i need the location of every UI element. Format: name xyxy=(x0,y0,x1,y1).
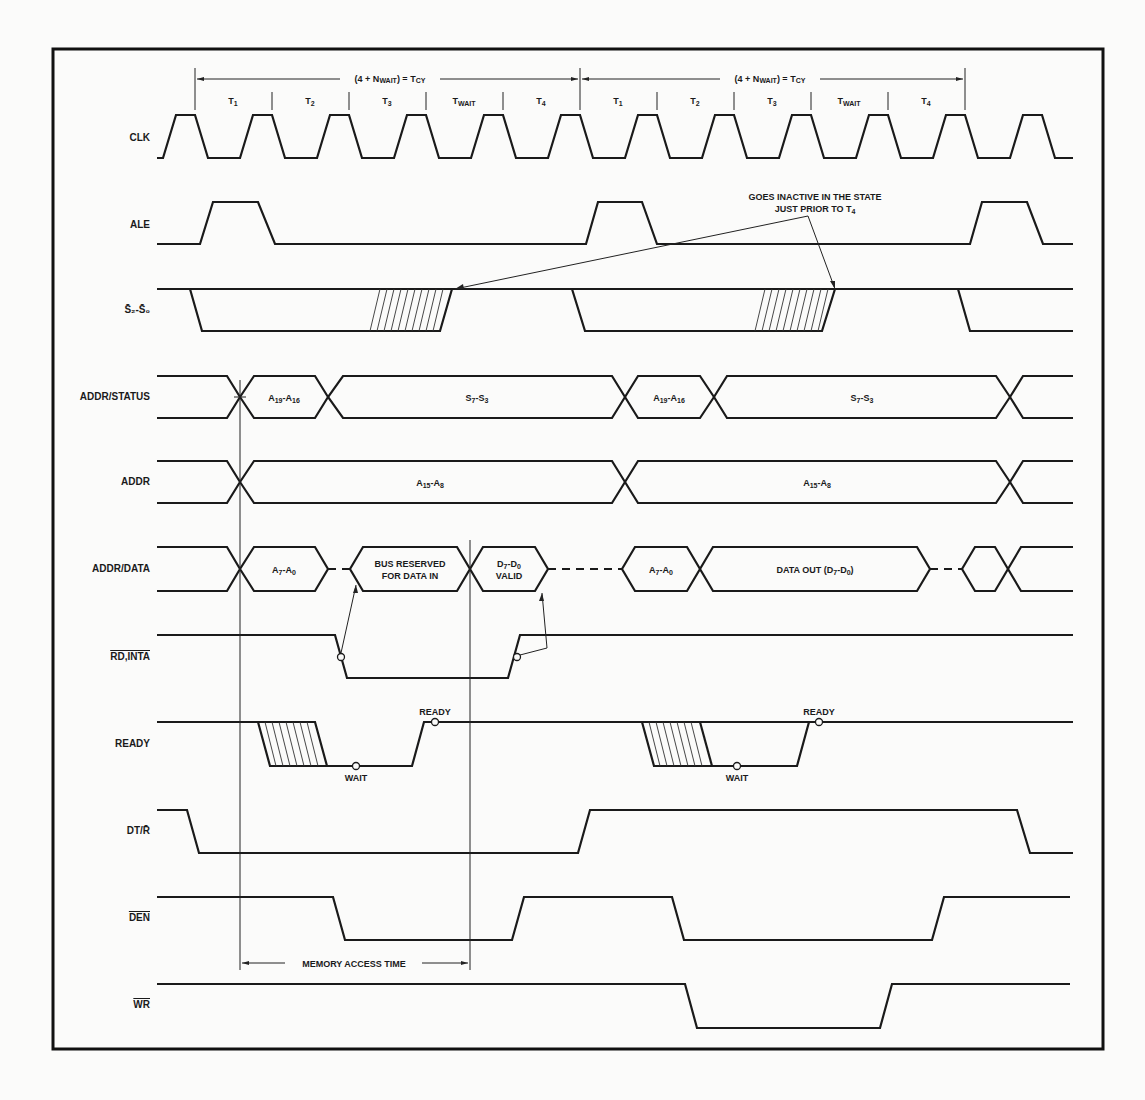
bus-reserved-label: BUS RESERVED xyxy=(375,559,446,569)
s2-s0-waveform xyxy=(157,289,1073,331)
svg-text:JUST PRIOR TO T4: JUST PRIOR TO T4 xyxy=(775,204,856,215)
state-twait: TWAIT xyxy=(453,96,477,107)
ready-label: READY xyxy=(803,707,835,717)
clk-waveform xyxy=(157,115,1073,158)
label-ale: ALE xyxy=(130,219,150,230)
data-out-label: DATA OUT (D7-D0) xyxy=(776,565,853,576)
label-addr-data: ADDR/DATA xyxy=(92,563,150,574)
ale-waveform xyxy=(157,202,1073,244)
state-labels-cycle-2: T1 T2 T3 TWAIT T4 xyxy=(613,96,931,107)
s7-s3-label: S7-S3 xyxy=(466,393,489,404)
memory-access-time: MEMORY ACCESS TIME xyxy=(242,959,468,969)
wr-waveform xyxy=(157,984,1070,1028)
reference-lines xyxy=(234,380,470,970)
dt-r-waveform xyxy=(157,810,1073,853)
s7-s3-label: S7-S3 xyxy=(851,393,874,404)
label-ready: READY xyxy=(115,738,150,749)
label-addr: ADDR xyxy=(121,476,151,487)
state-t4: T4 xyxy=(536,96,546,107)
addr-data-waveform: A7-A0 BUS RESERVED FOR DATA IN D7-D0 VAL… xyxy=(157,547,1073,591)
state-t2: T2 xyxy=(305,96,315,107)
state-t1: T1 xyxy=(613,96,623,107)
a19-a16-label: A19-A16 xyxy=(653,393,685,404)
diagram-frame xyxy=(53,49,1103,1049)
a19-a16-label: A19-A16 xyxy=(268,393,300,404)
ready-waveform: WAIT READY WAIT READY xyxy=(157,707,1073,783)
label-wr: WR xyxy=(133,999,150,1010)
state-labels-cycle-1: T1 T2 T3 TWAIT T4 xyxy=(228,96,546,107)
a7-a0-label: A7-A0 xyxy=(649,565,673,576)
for-data-in-label: FOR DATA IN xyxy=(382,571,438,581)
d7-d0-label: D7-D0 xyxy=(497,559,521,570)
timing-diagram: (4 + NWAIT) = TCY (4 + NWAIT) = TCY T1 T… xyxy=(0,0,1145,1100)
wait-label: WAIT xyxy=(345,773,368,783)
ready-label: READY xyxy=(419,707,451,717)
cycle-length-label: (4 + NWAIT) = TCY xyxy=(355,74,426,84)
rd-inta-waveform xyxy=(157,585,1073,678)
a7-a0-label: A7-A0 xyxy=(272,565,296,576)
addr-status-waveform: A19-A16 S7-S3 A19-A16 S7-S3 xyxy=(157,376,1073,418)
state-t3: T3 xyxy=(767,96,777,107)
svg-text:GOES INACTIVE IN THE STATE: GOES INACTIVE IN THE STATE xyxy=(748,192,881,202)
memory-access-time-label: MEMORY ACCESS TIME xyxy=(302,959,406,969)
goes-inactive-annotation: GOES INACTIVE IN THE STATE JUST PRIOR TO… xyxy=(455,192,882,289)
label-addr-status: ADDR/STATUS xyxy=(80,391,151,402)
den-waveform xyxy=(157,897,1070,940)
state-t3: T3 xyxy=(382,96,392,107)
label-clk: CLK xyxy=(129,132,150,143)
signal-labels: CLK ALE S̄₂-S̄₀ ADDR/STATUS ADDR ADDR/DA… xyxy=(80,132,151,1010)
a15-a8-label: A15-A8 xyxy=(803,478,831,489)
state-t2: T2 xyxy=(690,96,700,107)
cycle-length-label: (4 + NWAIT) = TCY xyxy=(735,74,806,84)
label-rd-inta: RD,INTA xyxy=(110,651,150,662)
state-t1: T1 xyxy=(228,96,238,107)
addr-waveform: A15-A8 A15-A8 xyxy=(157,461,1073,503)
label-den: DEN xyxy=(129,912,150,923)
valid-label: VALID xyxy=(496,571,523,581)
label-dt-r: DT/R̄ xyxy=(127,825,151,836)
state-t4: T4 xyxy=(921,96,931,107)
state-twait: TWAIT xyxy=(838,96,862,107)
a15-a8-label: A15-A8 xyxy=(416,478,444,489)
wait-label: WAIT xyxy=(726,773,749,783)
label-s2-s0: S̄₂-S̄₀ xyxy=(124,304,150,315)
